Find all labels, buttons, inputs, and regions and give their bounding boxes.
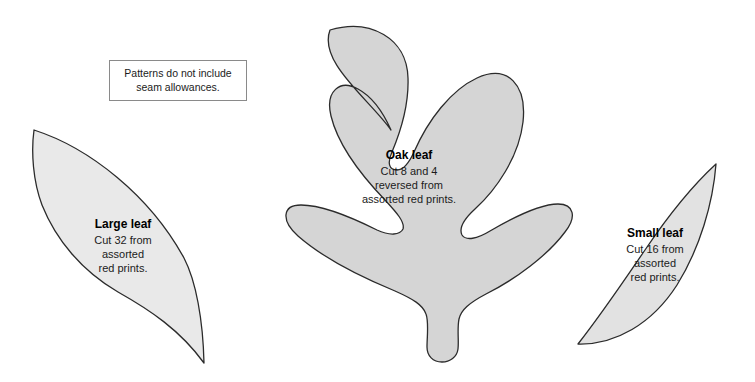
large-leaf-label: Large leaf Cut 32 from assorted red prin… xyxy=(68,217,178,275)
large-leaf-line-1: Cut 32 from xyxy=(68,233,178,247)
oak-leaf-title: Oak leaf xyxy=(333,148,485,164)
small-leaf-line-1: Cut 16 from xyxy=(601,242,709,256)
small-leaf-label: Small leaf Cut 16 from assorted red prin… xyxy=(601,226,709,284)
small-leaf-line-2: assorted xyxy=(601,256,709,270)
oak-leaf-line-3: assorted red prints. xyxy=(333,192,485,206)
seam-allowance-note: Patterns do not include seam allowances. xyxy=(109,60,247,101)
pattern-sheet: Patterns do not include seam allowances.… xyxy=(0,0,755,382)
oak-leaf-label: Oak leaf Cut 8 and 4 reversed from assor… xyxy=(333,148,485,206)
note-line-2: seam allowances. xyxy=(136,81,219,95)
oak-leaf-line-2: reversed from xyxy=(333,178,485,192)
note-line-1: Patterns do not include xyxy=(124,67,231,81)
large-leaf-line-2: assorted xyxy=(68,247,178,261)
small-leaf-title: Small leaf xyxy=(601,226,709,242)
small-leaf-line-3: red prints. xyxy=(601,270,709,284)
large-leaf-line-3: red prints. xyxy=(68,261,178,275)
large-leaf-title: Large leaf xyxy=(68,217,178,233)
oak-leaf-line-1: Cut 8 and 4 xyxy=(333,164,485,178)
